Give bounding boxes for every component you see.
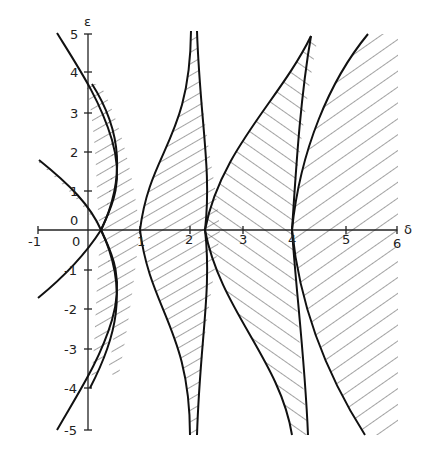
y-tick-label: 4 <box>70 65 78 80</box>
y-tick-label: -4 <box>64 381 77 396</box>
x-tick-label: 1 <box>137 234 145 249</box>
x-tick-label: 5 <box>342 232 350 247</box>
x-tick-label: 3 <box>239 232 247 247</box>
chart-svg: ε δ 5 4 3 2 1 0 -1 -2 -3 -4 -5 -1 0 1 2 … <box>0 0 443 458</box>
x-tick-label: 2 <box>185 232 193 247</box>
x-tick-label: 4 <box>288 232 296 247</box>
x-axis-title: δ <box>404 222 412 237</box>
y-axis-title: ε <box>84 14 91 29</box>
y-tick-label: -2 <box>64 302 77 317</box>
x-tick-label: 6 <box>393 236 401 251</box>
x-tick-label: 0 <box>72 234 80 249</box>
region-2-lower <box>205 230 308 435</box>
y-tick-label: -1 <box>64 263 77 278</box>
y-tick-label: 3 <box>70 106 78 121</box>
y-tick-label: 0 <box>70 213 78 228</box>
y-tick-label: 5 <box>70 27 78 42</box>
y-tick-label: 1 <box>70 184 78 199</box>
y-tick-label: 2 <box>70 145 78 160</box>
stability-chart: ε δ 5 4 3 2 1 0 -1 -2 -3 -4 -5 -1 0 1 2 … <box>0 0 443 458</box>
x-tick-label: -1 <box>28 234 41 249</box>
region-3-lower <box>292 230 398 435</box>
y-tick-label: -5 <box>64 423 77 438</box>
y-tick-label: -3 <box>64 342 77 357</box>
